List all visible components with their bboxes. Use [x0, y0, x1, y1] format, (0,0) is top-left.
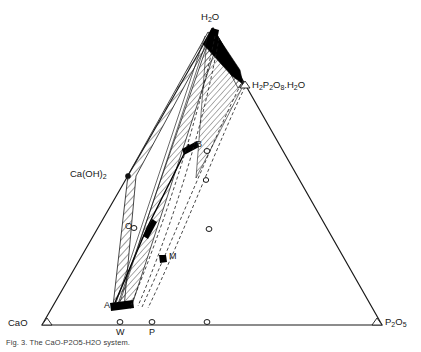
vertex-label-h2o: H2O — [201, 12, 219, 23]
circle-axis-w — [117, 320, 123, 325]
point-label-m: M — [169, 252, 177, 261]
h2p2o8-text: H2P2O8.H2O — [252, 79, 305, 90]
circle-interior-1 — [204, 149, 210, 154]
p2o5-text: P2O5 — [385, 316, 407, 327]
point-label-b: B — [196, 140, 202, 149]
edge-label-calcium-hydroxide: Ca(OH)2 — [70, 169, 107, 180]
figure-caption: Fig. 3. The CaO-P2O5-H2O system. — [6, 338, 130, 347]
circle-axis-p — [149, 320, 155, 325]
point-m-marker — [159, 255, 167, 263]
vertex-label-cao: CaO — [8, 318, 28, 328]
point-label-a: A — [104, 301, 110, 310]
circle-interior-2 — [203, 178, 208, 183]
edge-label-phosphoric-hydrate: H2P2O8.H2O — [252, 80, 305, 91]
point-label-o: O — [125, 222, 132, 231]
circle-interior-3 — [206, 227, 212, 232]
circle-axis-3 — [204, 320, 210, 325]
point-label-p: P — [149, 328, 155, 337]
point-label-w: W — [116, 328, 125, 337]
ternary-diagram-figure: H2O CaO P2O5 Ca(OH)2 H2P2O8.H2O A B O M … — [0, 0, 421, 352]
h2o-text: H2O — [201, 11, 219, 22]
vertex-label-p2o5: P2O5 — [385, 317, 407, 328]
caoh2-text: Ca(OH)2 — [70, 168, 107, 179]
caoh2-point-marker — [125, 173, 130, 178]
ternary-diagram-canvas — [0, 0, 421, 352]
cao-text: CaO — [8, 317, 28, 328]
